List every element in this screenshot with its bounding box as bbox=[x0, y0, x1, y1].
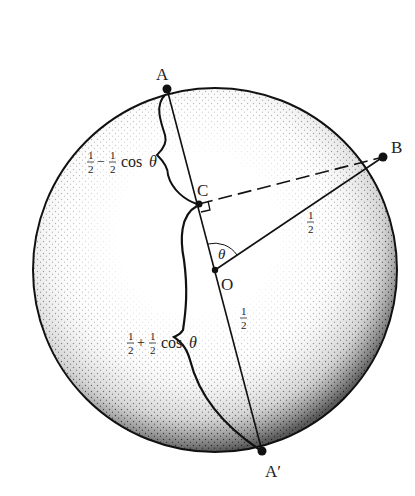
label-c: C bbox=[197, 181, 208, 200]
point-b bbox=[379, 153, 388, 162]
point-c bbox=[196, 201, 203, 208]
svg-text:1: 1 bbox=[128, 330, 134, 342]
ob-length-label: 1 2 bbox=[307, 209, 314, 235]
label-a-prime: A′ bbox=[265, 462, 281, 481]
svg-text:1: 1 bbox=[308, 209, 314, 221]
label-a: A bbox=[156, 65, 169, 84]
svg-text:2: 2 bbox=[128, 344, 134, 356]
label-b: B bbox=[391, 138, 402, 157]
svg-text:2: 2 bbox=[150, 344, 156, 356]
point-a bbox=[163, 85, 172, 94]
svg-text:2: 2 bbox=[241, 319, 247, 331]
svg-text:cos: cos bbox=[161, 334, 182, 351]
label-o: O bbox=[221, 275, 233, 294]
svg-text:1: 1 bbox=[88, 149, 94, 161]
svg-text:+: + bbox=[137, 335, 145, 350]
svg-text:1: 1 bbox=[241, 305, 247, 317]
svg-text:2: 2 bbox=[88, 163, 94, 175]
point-a-prime bbox=[258, 447, 267, 456]
label-theta: θ bbox=[218, 246, 226, 262]
sphere-diagram: A B C O A′ θ 1 2 − 1 2 cos θ 1 2 + 1 2 c… bbox=[0, 0, 415, 496]
oa-prime-length-label: 1 2 bbox=[240, 305, 247, 331]
svg-text:θ: θ bbox=[149, 153, 157, 170]
point-o bbox=[212, 267, 218, 273]
svg-text:θ: θ bbox=[189, 334, 197, 351]
svg-text:2: 2 bbox=[110, 163, 116, 175]
svg-text:1: 1 bbox=[110, 149, 116, 161]
svg-text:−: − bbox=[97, 154, 105, 169]
svg-text:cos: cos bbox=[121, 153, 142, 170]
svg-text:1: 1 bbox=[150, 330, 156, 342]
svg-text:2: 2 bbox=[308, 223, 314, 235]
